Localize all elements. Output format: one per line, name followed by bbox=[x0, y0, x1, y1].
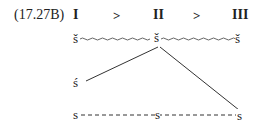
top-segment-1: š bbox=[73, 32, 78, 45]
solid-line-fall bbox=[160, 47, 239, 110]
bottom-segment-3: s bbox=[237, 109, 242, 122]
connection-lines bbox=[0, 0, 264, 128]
bottom-segment-2: s bbox=[155, 108, 160, 121]
bottom-segment-1: s bbox=[73, 108, 78, 121]
top-segment-3: š bbox=[235, 32, 240, 45]
solid-line-rise bbox=[86, 47, 158, 81]
middle-segment-1: ś bbox=[73, 76, 78, 89]
top-segment-2: š bbox=[154, 31, 159, 44]
